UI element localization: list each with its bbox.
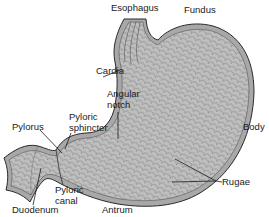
label-pyloric-canal: Pyloric canal [55,185,84,206]
label-rugae: Rugae [222,177,250,188]
label-duodenum: Duodenum [12,205,58,216]
stomach-diagram: Esophagus Fundus Cardia Angular notch Bo… [0,0,269,217]
label-antrum: Antrum [102,205,133,216]
stomach-mucosa [9,22,249,201]
label-pyloric-sphincter: Pyloric sphincter [69,112,108,133]
label-pylorus: Pylorus [12,122,44,133]
label-esophagus: Esophagus [111,3,159,14]
label-fundus: Fundus [184,5,216,16]
label-cardia: Cardia [96,66,124,77]
label-body: Body [243,122,265,133]
label-angular-notch: Angular notch [107,89,140,110]
